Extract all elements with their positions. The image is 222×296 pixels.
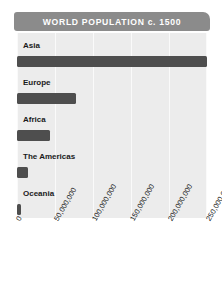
category-label: Africa [23, 115, 46, 124]
category-label: Europe [23, 78, 51, 87]
chart-title: WORLD POPULATION c. 1500 [43, 17, 181, 27]
world-population-bar-chart: WORLD POPULATION c. 1500 AsiaEuropeAfric… [0, 0, 222, 296]
bar-africa [17, 130, 50, 141]
bar-asia [17, 56, 207, 67]
bar-row: Europe [17, 70, 207, 107]
bar-row: Africa [17, 107, 207, 144]
bar-row: The Americas [17, 144, 207, 181]
chart-title-banner: WORLD POPULATION c. 1500 [14, 12, 210, 31]
bar-oceania [17, 204, 21, 215]
x-axis-tick-labels: 050,000,000100,000,000150,000,000200,000… [0, 218, 222, 296]
category-label: Asia [23, 41, 40, 50]
category-label: The Americas [23, 152, 75, 161]
bar-the-americas [17, 167, 28, 178]
bar-row: Asia [17, 33, 207, 70]
bar-europe [17, 93, 76, 104]
category-label: Oceania [23, 189, 54, 198]
